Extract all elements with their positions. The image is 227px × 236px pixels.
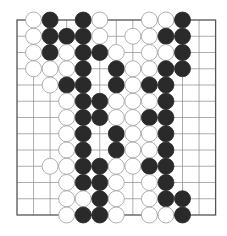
white-stone xyxy=(26,45,42,61)
black-stone xyxy=(75,12,91,28)
white-stone xyxy=(141,175,157,191)
white-stone xyxy=(125,126,141,142)
white-stone xyxy=(108,175,124,191)
white-stone xyxy=(59,110,75,126)
black-stone xyxy=(75,158,91,174)
white-stone xyxy=(141,28,157,44)
black-stone xyxy=(108,142,124,158)
black-stone xyxy=(92,93,108,109)
white-stone xyxy=(26,61,42,77)
black-stone xyxy=(75,175,91,191)
white-stone xyxy=(108,110,124,126)
white-stone xyxy=(141,12,157,28)
black-stone xyxy=(175,191,191,207)
black-stone xyxy=(158,77,174,93)
white-stone xyxy=(141,191,157,207)
black-stone xyxy=(175,207,191,223)
white-stone xyxy=(141,93,157,109)
white-stone xyxy=(125,158,141,174)
black-stone xyxy=(92,45,108,61)
black-stone xyxy=(108,126,124,142)
white-stone xyxy=(59,61,75,77)
white-stone xyxy=(125,61,141,77)
black-stone xyxy=(75,126,91,142)
black-stone xyxy=(158,175,174,191)
white-stone xyxy=(92,28,108,44)
white-stone xyxy=(59,175,75,191)
black-stone xyxy=(141,110,157,126)
black-stone xyxy=(92,158,108,174)
white-stone xyxy=(141,45,157,61)
black-stone xyxy=(59,77,75,93)
white-stone xyxy=(59,142,75,158)
black-stone xyxy=(158,158,174,174)
black-stone xyxy=(75,77,91,93)
black-stone xyxy=(108,61,124,77)
white-stone xyxy=(108,158,124,174)
white-stone xyxy=(125,28,141,44)
black-stone xyxy=(158,191,174,207)
white-stone xyxy=(158,45,174,61)
white-stone xyxy=(108,93,124,109)
black-stone xyxy=(75,61,91,77)
white-stone xyxy=(108,45,124,61)
black-stone xyxy=(158,142,174,158)
black-stone xyxy=(75,110,91,126)
white-stone xyxy=(141,126,157,142)
black-stone xyxy=(59,28,75,44)
black-stone xyxy=(92,207,108,223)
white-stone xyxy=(75,191,91,207)
white-stone xyxy=(42,77,58,93)
white-stone xyxy=(141,61,157,77)
black-stone xyxy=(92,110,108,126)
white-stone xyxy=(59,93,75,109)
black-stone xyxy=(158,61,174,77)
white-stone xyxy=(125,93,141,109)
black-stone xyxy=(158,126,174,142)
black-stone xyxy=(75,28,91,44)
white-stone xyxy=(42,158,58,174)
go-board xyxy=(0,0,227,236)
white-stone xyxy=(158,207,174,223)
white-stone xyxy=(108,191,124,207)
white-stone xyxy=(59,126,75,142)
black-stone xyxy=(175,28,191,44)
black-stone xyxy=(108,77,124,93)
black-stone xyxy=(75,45,91,61)
black-stone xyxy=(175,45,191,61)
black-stone xyxy=(42,45,58,61)
black-stone xyxy=(158,93,174,109)
black-stone xyxy=(92,175,108,191)
white-stone xyxy=(125,110,141,126)
white-stone xyxy=(92,12,108,28)
black-stone xyxy=(75,93,91,109)
black-stone xyxy=(75,142,91,158)
black-stone xyxy=(158,28,174,44)
white-stone xyxy=(108,207,124,223)
white-stone xyxy=(26,12,42,28)
white-stone xyxy=(42,61,58,77)
black-stone xyxy=(92,191,108,207)
white-stone xyxy=(59,207,75,223)
white-stone xyxy=(59,158,75,174)
black-stone xyxy=(141,158,157,174)
black-stone xyxy=(175,61,191,77)
white-stone xyxy=(141,207,157,223)
white-stone xyxy=(141,142,157,158)
black-stone xyxy=(75,207,91,223)
white-stone xyxy=(158,12,174,28)
black-stone xyxy=(141,77,157,93)
black-stone xyxy=(158,110,174,126)
black-stone xyxy=(42,12,58,28)
black-stone xyxy=(42,28,58,44)
white-stone xyxy=(59,191,75,207)
white-stone xyxy=(26,28,42,44)
black-stone xyxy=(175,12,191,28)
white-stone xyxy=(125,77,141,93)
white-stone xyxy=(59,45,75,61)
white-stone xyxy=(125,142,141,158)
